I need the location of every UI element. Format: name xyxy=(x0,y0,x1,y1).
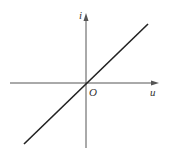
y-axis-label: i xyxy=(79,10,82,21)
diagram-canvas xyxy=(0,0,169,157)
x-axis-arrow-icon xyxy=(151,81,159,86)
origin-label: O xyxy=(89,87,97,98)
iv-characteristic-diagram: i O u xyxy=(0,0,169,157)
y-axis-arrow-icon xyxy=(84,13,89,21)
x-axis-label: u xyxy=(150,87,156,98)
